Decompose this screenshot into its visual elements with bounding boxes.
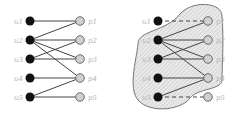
edge [30,21,80,40]
p-node [204,74,213,83]
p-node [76,55,85,64]
p-node [76,74,85,83]
u-node-label: u5 [14,94,24,102]
p-node-label: p1 [216,18,225,26]
u-node [154,74,163,83]
p-node [204,17,213,26]
u-node [154,36,163,45]
u-node [26,17,35,26]
p-node-label: p2 [88,37,97,45]
u-node-label: u5 [142,94,152,102]
u-node [154,17,163,26]
p-node-label: p3 [216,56,225,64]
p-node [76,17,85,26]
p-node-label: p4 [216,75,225,83]
u-node-label: u1 [14,18,23,26]
p-node-label: p2 [216,37,225,45]
u-node [154,93,163,102]
p-node-label: p5 [216,94,225,102]
u-node-label: u3 [14,56,24,64]
u-node-label: u3 [142,56,152,64]
u-node-label: u2 [14,37,24,45]
u-node-label: u4 [14,75,23,83]
p-node [204,93,213,102]
u-node [154,55,163,64]
diagram-canvas: u1u2u3u4u5p1p2p3p4p5u1u2u3u4u5p1p2p3p4p5 [0,0,244,128]
edge [30,78,80,97]
p-node [204,36,213,45]
p-node-label: p1 [88,18,97,26]
u-node-label: u4 [142,75,151,83]
u-node-label: u2 [142,37,152,45]
u-node [26,93,35,102]
p-node-label: p3 [88,56,97,64]
u-node [26,55,35,64]
p-node [204,55,213,64]
p-node-label: p5 [88,94,97,102]
p-node-label: p4 [88,75,97,83]
p-node [76,36,85,45]
u-node [26,36,35,45]
u-node [26,74,35,83]
p-node [76,93,85,102]
u-node-label: u1 [142,18,151,26]
